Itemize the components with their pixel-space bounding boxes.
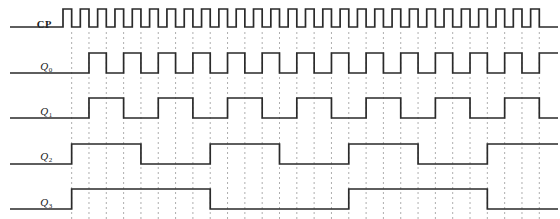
timing-diagram: CP Q0 Q1 Q2 Q3 — [0, 0, 560, 219]
waveform-q2 — [10, 144, 558, 164]
waveform-q1 — [10, 98, 558, 118]
signal-waveforms — [10, 9, 558, 209]
waveform-q3 — [10, 189, 558, 209]
waveform-canvas — [0, 0, 560, 219]
waveform-cp — [10, 9, 558, 27]
clock-guide-lines — [72, 32, 540, 219]
waveform-q0 — [10, 53, 558, 73]
